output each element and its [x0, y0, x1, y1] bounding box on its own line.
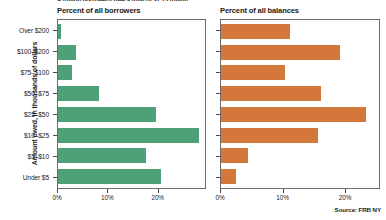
x-tick-mark [220, 189, 221, 193]
x-tick-mark [57, 189, 58, 193]
y-tick-label: $100–$200 [0, 43, 51, 61]
x-tick-mark [283, 189, 284, 193]
bar-row [221, 43, 379, 61]
x-tick-label: 20% [151, 194, 164, 201]
plot-area-balances [220, 19, 380, 189]
bar [58, 128, 199, 143]
bar-row [221, 23, 379, 41]
y-tick-label: $50–$75 [0, 85, 51, 103]
y-tick-label: $5–$10 [0, 148, 51, 166]
bar-row [58, 43, 205, 61]
bar-row [58, 106, 205, 124]
x-tick-label: 0% [215, 194, 224, 201]
x-axis-tick-labels-borrowers: 0%10%20% [57, 194, 206, 204]
bar-row [221, 126, 379, 144]
bar [58, 148, 146, 163]
panel-balances: Percent of all balances 0%10%20% Source:… [215, 0, 386, 220]
bar-row [58, 64, 205, 82]
y-tick-label: Under $5 [0, 169, 51, 187]
bar-series-borrowers [58, 20, 205, 188]
bar-row [221, 168, 379, 186]
bar-row [58, 147, 205, 165]
x-tick-mark [107, 189, 108, 193]
bar [58, 45, 76, 60]
bar [221, 148, 248, 163]
bar [221, 45, 340, 60]
panel-title-balances: Percent of all balances [220, 6, 299, 15]
bar [221, 169, 236, 184]
x-axis-tick-marks-balances [220, 189, 380, 193]
panel-title-borrowers: Percent of all borrowers [57, 6, 140, 15]
source-note: Source: FRB NY [335, 206, 381, 213]
bar [221, 24, 290, 39]
y-tick-label: $75–$100 [0, 64, 51, 82]
bar-row [221, 85, 379, 103]
bar [58, 107, 156, 122]
bar [58, 86, 99, 101]
y-tick-label: $10–$25 [0, 127, 51, 145]
bar [58, 65, 72, 80]
x-axis-tick-marks-borrowers [57, 189, 206, 193]
y-axis-tick-labels: Over $200$100–$200$75–$100$50–$75$25–$50… [0, 19, 51, 189]
bar-row [58, 23, 205, 41]
y-tick-label: $25–$50 [0, 106, 51, 124]
bar-row [58, 126, 205, 144]
bar [221, 128, 318, 143]
bar-row [221, 147, 379, 165]
plot-area-borrowers [57, 19, 206, 189]
chart-figure: A trillion borrowers owe a total of $1.7… [0, 0, 386, 220]
x-tick-label: 10% [101, 194, 114, 201]
bar-row [58, 85, 205, 103]
bar-row [58, 168, 205, 186]
x-tick-mark [158, 189, 159, 193]
x-tick-label: 20% [339, 194, 352, 201]
bar [58, 24, 61, 39]
bar-series-balances [221, 20, 379, 188]
panel-borrowers: Percent of all borrowers Over $200$100–$… [0, 0, 210, 220]
x-tick-label: 0% [52, 194, 61, 201]
x-tick-mark [345, 189, 346, 193]
y-tick-label: Over $200 [0, 22, 51, 40]
x-tick-label: 10% [276, 194, 289, 201]
bar [58, 169, 161, 184]
bar [221, 65, 285, 80]
bar [221, 86, 321, 101]
bar [221, 107, 366, 122]
bar-row [221, 64, 379, 82]
bar-row [221, 106, 379, 124]
x-axis-tick-labels-balances: 0%10%20% [220, 194, 380, 204]
